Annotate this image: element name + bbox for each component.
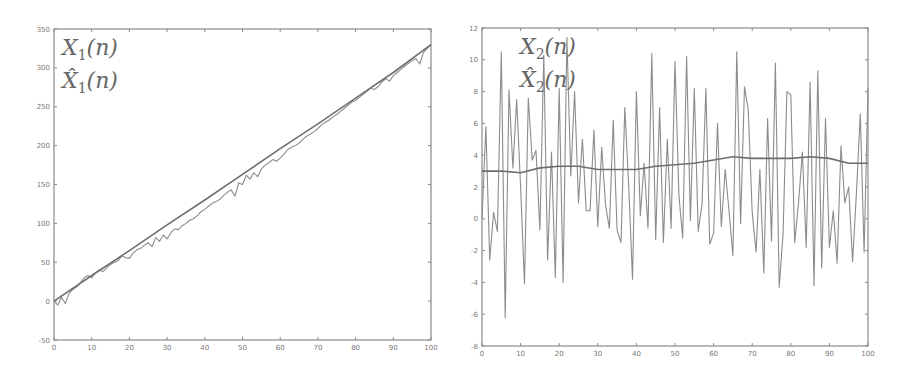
legend-estimate-label: X̂2(n): [518, 67, 576, 95]
x-tick-label: 90: [389, 344, 398, 352]
y-tick-label: -50: [39, 337, 50, 345]
y-tick-label: 10: [469, 56, 478, 64]
x-tick-label: 70: [313, 344, 322, 352]
y-tick-label: 2: [474, 184, 478, 192]
y-tick-label: -4: [471, 279, 479, 287]
y-tick-label: -2: [471, 247, 478, 255]
chart-right-canvas: 0102030405060708090100-8-6-4-2024681012X…: [450, 0, 902, 370]
y-tick-label: 0: [474, 215, 478, 223]
y-tick-label: -6: [471, 311, 479, 319]
estimate-line: [482, 157, 868, 173]
y-tick-label: 200: [37, 142, 50, 150]
y-tick-label: 6: [474, 120, 479, 128]
x-tick-label: 60: [276, 344, 285, 352]
legend-estimate-label: X̂1(n): [60, 68, 118, 96]
x-tick-label: 60: [709, 350, 718, 358]
x-tick-label: 50: [671, 350, 680, 358]
chart-right: 0102030405060708090100-8-6-4-2024681012X…: [450, 0, 902, 370]
y-tick-label: -8: [471, 343, 478, 351]
x-tick-label: 80: [351, 344, 360, 352]
x-tick-label: 80: [786, 350, 795, 358]
y-tick-label: 350: [37, 26, 50, 34]
x-tick-label: 40: [632, 350, 641, 358]
y-tick-label: 0: [46, 298, 50, 306]
x-tick-label: 100: [424, 344, 437, 352]
y-tick-label: 150: [37, 181, 50, 189]
y-tick-label: 12: [469, 25, 478, 33]
y-tick-label: 100: [37, 220, 50, 228]
x-tick-label: 50: [238, 344, 247, 352]
legend-signal-label: X1(n): [60, 35, 118, 63]
x-tick-label: 30: [163, 344, 172, 352]
x-tick-label: 40: [200, 344, 209, 352]
x-tick-label: 100: [861, 350, 874, 358]
y-tick-label: 4: [474, 152, 479, 160]
y-tick-label: 50: [41, 259, 50, 267]
legend-signal-label: X2(n): [518, 34, 576, 62]
chart-left-canvas: 0102030405060708090100-50050100150200250…: [0, 0, 450, 370]
y-tick-label: 250: [37, 103, 50, 111]
x-tick-label: 0: [52, 344, 56, 352]
x-tick-label: 10: [516, 350, 525, 358]
chart-left: 0102030405060708090100-50050100150200250…: [0, 0, 450, 370]
y-tick-label: 8: [474, 88, 478, 96]
x-tick-label: 0: [480, 350, 484, 358]
x-tick-label: 30: [593, 350, 602, 358]
x-tick-label: 90: [825, 350, 834, 358]
x-tick-label: 20: [555, 350, 564, 358]
x-tick-label: 20: [125, 344, 134, 352]
x-tick-label: 10: [87, 344, 96, 352]
y-tick-label: 300: [37, 64, 50, 72]
x-tick-label: 70: [748, 350, 757, 358]
